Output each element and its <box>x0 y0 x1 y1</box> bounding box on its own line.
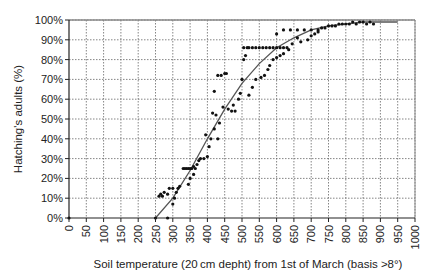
data-point <box>344 22 347 25</box>
data-point <box>209 137 212 140</box>
data-point <box>206 155 209 158</box>
data-point <box>213 127 216 130</box>
x-tick-label: 250 <box>150 225 162 243</box>
x-tick-label: 450 <box>219 225 231 243</box>
data-point <box>173 197 176 200</box>
data-point <box>341 22 344 25</box>
data-point <box>261 46 264 49</box>
y-axis-ticks: 0%10%20%30%40%50%60%70%80%90%100% <box>35 14 69 224</box>
data-point <box>362 20 365 23</box>
data-point <box>272 46 275 49</box>
data-point <box>323 26 326 29</box>
data-point <box>240 78 243 81</box>
data-point <box>275 46 278 49</box>
data-point <box>282 52 285 55</box>
data-point <box>291 42 294 45</box>
data-point <box>192 173 195 176</box>
data-point <box>166 216 169 219</box>
data-point <box>275 56 278 59</box>
data-point <box>348 22 351 25</box>
data-point <box>337 22 340 25</box>
data-point <box>225 72 228 75</box>
data-point <box>242 58 245 61</box>
data-point <box>330 24 333 27</box>
data-point <box>306 38 309 41</box>
data-point <box>171 203 174 206</box>
grid-lines <box>69 20 415 218</box>
data-point <box>310 28 313 31</box>
data-point <box>279 54 282 57</box>
x-tick-label: 350 <box>184 225 196 243</box>
data-point <box>199 157 202 160</box>
x-tick-label: 600 <box>271 225 283 243</box>
data-point <box>259 76 262 79</box>
data-point <box>358 20 361 23</box>
data-point <box>189 177 192 180</box>
data-point <box>351 20 354 23</box>
data-point <box>247 46 250 49</box>
data-point <box>299 40 302 43</box>
x-tick-label: 900 <box>374 225 386 243</box>
y-tick-label: 60% <box>41 93 63 105</box>
y-tick-label: 20% <box>41 172 63 184</box>
data-point <box>251 86 254 89</box>
x-tick-label: 200 <box>132 225 144 243</box>
x-tick-label: 700 <box>305 225 317 243</box>
data-point <box>216 74 219 77</box>
data-point <box>266 68 269 71</box>
x-tick-label: 800 <box>340 225 352 243</box>
data-point <box>244 54 247 57</box>
data-point <box>251 46 254 49</box>
data-points <box>67 20 375 219</box>
data-point <box>275 32 278 35</box>
data-point <box>368 20 371 23</box>
x-tick-label: 100 <box>98 225 110 243</box>
data-point <box>254 46 257 49</box>
data-point <box>365 22 368 25</box>
data-point <box>372 22 375 25</box>
data-point <box>282 46 285 49</box>
data-point <box>232 104 235 107</box>
y-tick-label: 40% <box>41 133 63 145</box>
data-point <box>204 133 207 136</box>
data-point <box>303 28 306 31</box>
data-point <box>268 46 271 49</box>
data-point <box>327 24 330 27</box>
y-tick-label: 30% <box>41 153 63 165</box>
x-tick-label: 750 <box>323 225 335 243</box>
data-point <box>230 110 233 113</box>
x-tick-label: 150 <box>115 225 127 243</box>
data-point <box>355 22 358 25</box>
data-point <box>208 145 211 148</box>
x-tick-label: 650 <box>288 225 300 243</box>
data-point <box>220 74 223 77</box>
x-tick-label: 1000 <box>409 225 421 249</box>
data-point <box>171 187 174 190</box>
data-point <box>166 193 169 196</box>
data-point <box>296 36 299 39</box>
data-point <box>187 183 190 186</box>
data-point <box>211 112 214 115</box>
y-tick-label: 10% <box>41 192 63 204</box>
data-point <box>287 48 290 51</box>
x-axis-label: Soil temperature (20 cm depht) from 1st … <box>94 258 403 270</box>
data-point <box>221 106 224 109</box>
data-point <box>268 64 271 67</box>
data-point <box>195 163 198 166</box>
data-point <box>218 121 221 124</box>
data-point <box>265 46 268 49</box>
data-point <box>320 26 323 29</box>
data-point <box>234 110 237 113</box>
data-point <box>289 28 292 31</box>
data-point <box>310 34 313 37</box>
y-axis-label: Hatching's adults (%) <box>12 65 24 173</box>
y-tick-label: 0% <box>47 212 63 224</box>
y-tick-label: 80% <box>41 54 63 66</box>
data-point <box>194 167 197 170</box>
data-point <box>213 90 216 93</box>
data-point <box>161 195 164 198</box>
data-point <box>254 78 257 81</box>
data-point <box>163 191 166 194</box>
chart: 0501001502002503003504004505005506006507… <box>0 0 434 280</box>
data-point <box>168 187 171 190</box>
